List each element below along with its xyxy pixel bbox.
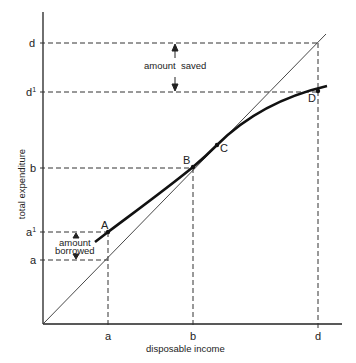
x-tick-d: d [315,330,321,342]
point-label-A: A [101,219,109,231]
x-tick-a: a [105,330,112,342]
y-tick-a1: a1 [26,226,36,238]
point-label-B: B [183,154,190,166]
point-label-D: D [308,92,316,104]
y-tick-d: d [29,37,35,49]
point-label-C: C [220,142,228,154]
forty-five-degree-line [44,34,326,323]
curve-points [106,89,320,234]
expenditure-curve [95,86,327,242]
y-tick-b: b [30,162,36,174]
y-tick-d1: d1 [26,86,36,98]
y-tick-a: a [30,254,37,266]
consumption-diagram: d d1 b a1 a a b d A B C D amount saved a… [0,0,356,363]
amount-saved-label: amount saved [144,60,206,71]
amount-borrowed-label-2: borrowed [55,245,95,256]
x-tick-b: b [190,330,196,342]
y-axis-title: total expenditure [16,149,27,219]
guide-lines [40,43,318,328]
x-axis-title: disposable income [146,343,225,354]
